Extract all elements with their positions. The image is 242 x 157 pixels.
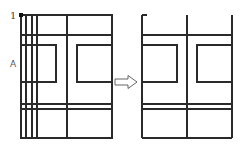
marker-point xyxy=(19,13,23,17)
side-label: A xyxy=(10,59,17,69)
point-label: 1 xyxy=(10,10,16,21)
after-right-inner-square xyxy=(197,45,232,82)
transform-arrow-icon xyxy=(115,76,137,89)
after-floor-plan xyxy=(142,15,232,138)
before-floor-plan: 1 A xyxy=(10,10,112,138)
diagram-canvas: 1 A xyxy=(0,0,242,157)
after-left-inner-square xyxy=(142,45,177,82)
before-right-inner-square xyxy=(77,45,112,82)
